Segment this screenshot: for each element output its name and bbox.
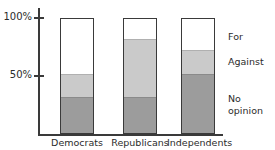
bar-independents xyxy=(181,18,215,134)
category-label-independents: Independents xyxy=(167,137,231,149)
bar-democrats xyxy=(60,18,94,134)
y-tick-50 xyxy=(34,75,44,77)
category-label-republicans: Republicans xyxy=(108,137,172,149)
segment-no-opinion xyxy=(61,97,93,133)
segment-no-opinion xyxy=(182,74,214,133)
legend-for: For xyxy=(228,31,243,43)
legend-no-opinion: No opinion xyxy=(228,93,275,117)
y-axis xyxy=(38,8,40,136)
bar-republicans xyxy=(123,18,157,134)
segment-no-opinion xyxy=(124,97,156,133)
stacked-bar-chart: 100% 50% Democrats Republicans Independe… xyxy=(0,0,275,150)
x-axis xyxy=(38,134,223,136)
y-tick-100 xyxy=(34,17,44,19)
legend-against: Against xyxy=(228,56,264,68)
y-tick-label-100: 100% xyxy=(0,11,32,23)
y-tick-label-50: 50% xyxy=(0,69,32,81)
category-label-democrats: Democrats xyxy=(45,137,109,149)
